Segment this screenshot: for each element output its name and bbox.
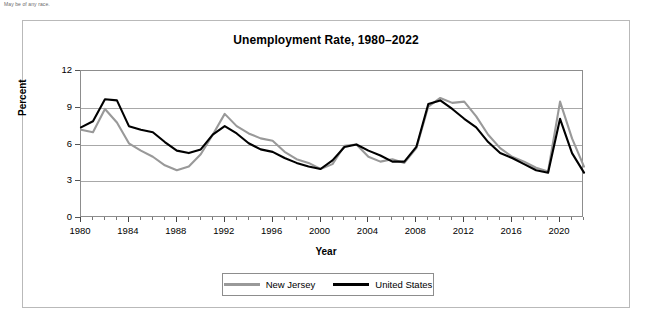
x-tick-label-2020: 2020 [539, 225, 579, 236]
legend-swatch-icon [224, 283, 260, 286]
legend-item-new-jersey[interactable]: New Jersey [224, 279, 316, 290]
x-tick-label-2000: 2000 [300, 225, 340, 236]
chart-screenshot: May be of any race. Unemployment Rate, 1… [0, 0, 648, 322]
y-tick-label-6: 6 [46, 138, 72, 149]
x-tick-label-1984: 1984 [108, 225, 148, 236]
y-tick-label-9: 9 [46, 101, 72, 112]
footnote-text: May be of any race. [4, 1, 50, 7]
x-axis-label: Year [23, 246, 629, 257]
x-tick-label-2008: 2008 [395, 225, 435, 236]
x-tick-label-1980: 1980 [60, 225, 100, 236]
data-series-layer [81, 71, 584, 218]
x-tick-label-2016: 2016 [491, 225, 531, 236]
y-tick-label-12: 12 [46, 64, 72, 75]
x-tick-label-2012: 2012 [443, 225, 483, 236]
x-tick-label-2004: 2004 [347, 225, 387, 236]
legend-label: New Jersey [266, 279, 316, 290]
figure-container: Unemployment Rate, 1980–2022 Percent 036… [22, 20, 630, 308]
y-tick-label-0: 0 [46, 211, 72, 222]
chart-legend: New JerseyUnited States [222, 273, 434, 296]
chart-title: Unemployment Rate, 1980–2022 [23, 33, 629, 47]
x-tick-label-1988: 1988 [156, 225, 196, 236]
plot-area [80, 70, 583, 217]
x-tick-label-1996: 1996 [252, 225, 292, 236]
series-line-united-states [81, 99, 584, 172]
x-tick-label-1992: 1992 [204, 225, 244, 236]
legend-item-united-states[interactable]: United States [333, 279, 432, 290]
y-tick-label-3: 3 [46, 174, 72, 185]
y-axis-label: Percent [17, 79, 28, 116]
legend-swatch-icon [333, 283, 369, 286]
legend-label: United States [375, 279, 432, 290]
